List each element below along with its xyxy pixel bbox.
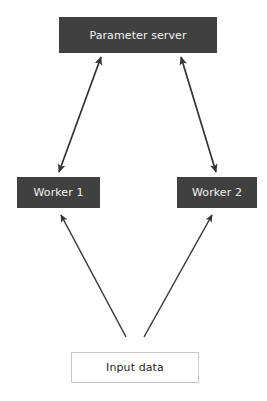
node-parameter-server-label: Parameter server [89,30,186,41]
node-input-data-label: Input data [106,362,164,373]
diagram-canvas: Parameter server Worker 1 Worker 2 Input… [0,0,267,401]
node-input-data[interactable]: Input data [71,352,199,383]
edge-input-worker2 [144,215,212,337]
node-parameter-server[interactable]: Parameter server [59,17,217,53]
node-worker-2[interactable]: Worker 2 [177,177,257,208]
node-worker-2-label: Worker 2 [192,187,242,198]
edge-ps-worker2 [181,57,216,172]
edge-input-worker1 [61,215,126,337]
edge-ps-worker1 [59,57,101,172]
node-worker-1-label: Worker 1 [33,187,83,198]
node-worker-1[interactable]: Worker 1 [17,177,100,208]
